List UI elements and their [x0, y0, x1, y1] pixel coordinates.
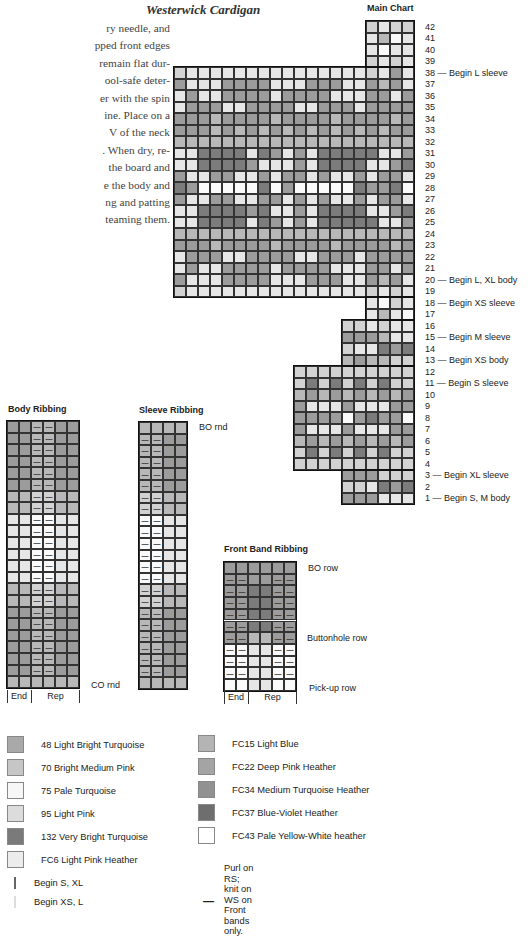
chart-cell	[402, 102, 414, 114]
purl-dash-cell: —	[272, 597, 284, 609]
rib-cell	[236, 679, 248, 691]
chart-cell	[318, 67, 330, 79]
rib-cell	[260, 632, 272, 644]
purl-dash-cell: —	[236, 632, 248, 644]
chart-cell	[210, 159, 222, 171]
chart-cell	[378, 389, 390, 401]
chart-cell	[390, 205, 402, 217]
chart-cell	[186, 194, 198, 206]
legend-label: Begin S, XL	[34, 878, 83, 888]
purl-dash-cell: —	[236, 609, 248, 621]
chart-cell	[306, 113, 318, 125]
chart-cell	[174, 67, 186, 79]
rib-cell	[163, 666, 175, 678]
chart-cell	[294, 102, 306, 114]
chart-cell	[258, 194, 270, 206]
purl-dash-cell: —	[31, 421, 43, 433]
rib-cell	[7, 572, 19, 584]
chart-cell	[330, 217, 342, 229]
body-text-line: e the body and	[0, 177, 170, 194]
chart-cell	[282, 205, 294, 217]
legend-item: 75 Pale Turquoise	[7, 782, 116, 799]
row-label: 23	[425, 240, 435, 251]
chart-cell	[390, 228, 402, 240]
rib-cell	[260, 597, 272, 609]
chart-cell	[366, 366, 378, 378]
rib-cell	[55, 479, 67, 491]
rib-cell	[248, 585, 260, 597]
body-text-line: ng and patting	[0, 194, 170, 211]
purl-dash-cell: —	[139, 631, 151, 643]
chart-cell	[246, 228, 258, 240]
chart-cell	[282, 113, 294, 125]
sleeve-ribbing-title: Sleeve Ribbing	[139, 405, 204, 415]
chart-cell	[390, 44, 402, 56]
chart-cell	[342, 274, 354, 286]
chart-cell	[354, 205, 366, 217]
chart-cell	[366, 447, 378, 459]
row-label: 7	[425, 424, 430, 435]
chart-cell	[258, 79, 270, 91]
rib-cell	[248, 621, 260, 633]
purl-dash-cell: —	[31, 653, 43, 665]
body-ribbing-title: Body Ribbing	[8, 404, 67, 414]
chart-cell	[402, 355, 414, 367]
rib-cell	[55, 421, 67, 433]
chart-cell	[402, 67, 414, 79]
rib-cell	[7, 525, 19, 537]
chart-cell	[246, 148, 258, 160]
rib-cell	[224, 562, 236, 574]
chart-cell	[246, 217, 258, 229]
chart-cell	[306, 366, 318, 378]
chart-cell	[318, 79, 330, 91]
chart-cell	[294, 286, 306, 298]
chart-cell	[390, 355, 402, 367]
chart-cell	[198, 148, 210, 160]
chart-cell	[318, 458, 330, 470]
rib-cell	[55, 583, 67, 595]
chart-cell	[294, 378, 306, 390]
chart-cell	[354, 159, 366, 171]
chart-cell	[366, 159, 378, 171]
chart-cell	[402, 56, 414, 68]
chart-cell	[342, 447, 354, 459]
chart-cell	[402, 366, 414, 378]
chart-cell	[294, 79, 306, 91]
purl-dash-cell: —	[43, 444, 55, 456]
chart-cell	[342, 412, 354, 424]
chart-cell	[186, 136, 198, 148]
rib-cell	[19, 549, 31, 561]
chart-cell	[390, 194, 402, 206]
chart-cell	[222, 217, 234, 229]
rib-cell	[248, 679, 260, 691]
chart-cell	[402, 79, 414, 91]
chart-cell	[174, 159, 186, 171]
chart-cell	[294, 217, 306, 229]
purl-dash-cell: —	[31, 583, 43, 595]
chart-cell	[402, 378, 414, 390]
chart-cell	[306, 286, 318, 298]
chart-cell	[174, 251, 186, 263]
chart-cell	[330, 263, 342, 275]
rib-cell	[163, 608, 175, 620]
rib-cell	[175, 503, 187, 515]
chart-cell	[306, 228, 318, 240]
purl-dash-cell: —	[224, 644, 236, 656]
legend-item: FC6 Light Pink Heather	[7, 851, 138, 868]
chart-cell	[234, 67, 246, 79]
chart-cell	[318, 182, 330, 194]
chart-cell	[390, 113, 402, 125]
purl-dash-cell: —	[139, 457, 151, 469]
chart-cell	[294, 389, 306, 401]
chart-cell	[318, 366, 330, 378]
chart-cell	[402, 435, 414, 447]
chart-cell	[210, 228, 222, 240]
bo-rnd-label: BO rnd	[199, 422, 228, 432]
chart-cell	[342, 378, 354, 390]
purl-dash-cell: —	[43, 572, 55, 584]
chart-cell	[354, 332, 366, 344]
purl-dash-cell: —	[236, 585, 248, 597]
chart-cell	[294, 401, 306, 413]
chart-cell	[342, 401, 354, 413]
purl-dash-cell: —	[43, 421, 55, 433]
